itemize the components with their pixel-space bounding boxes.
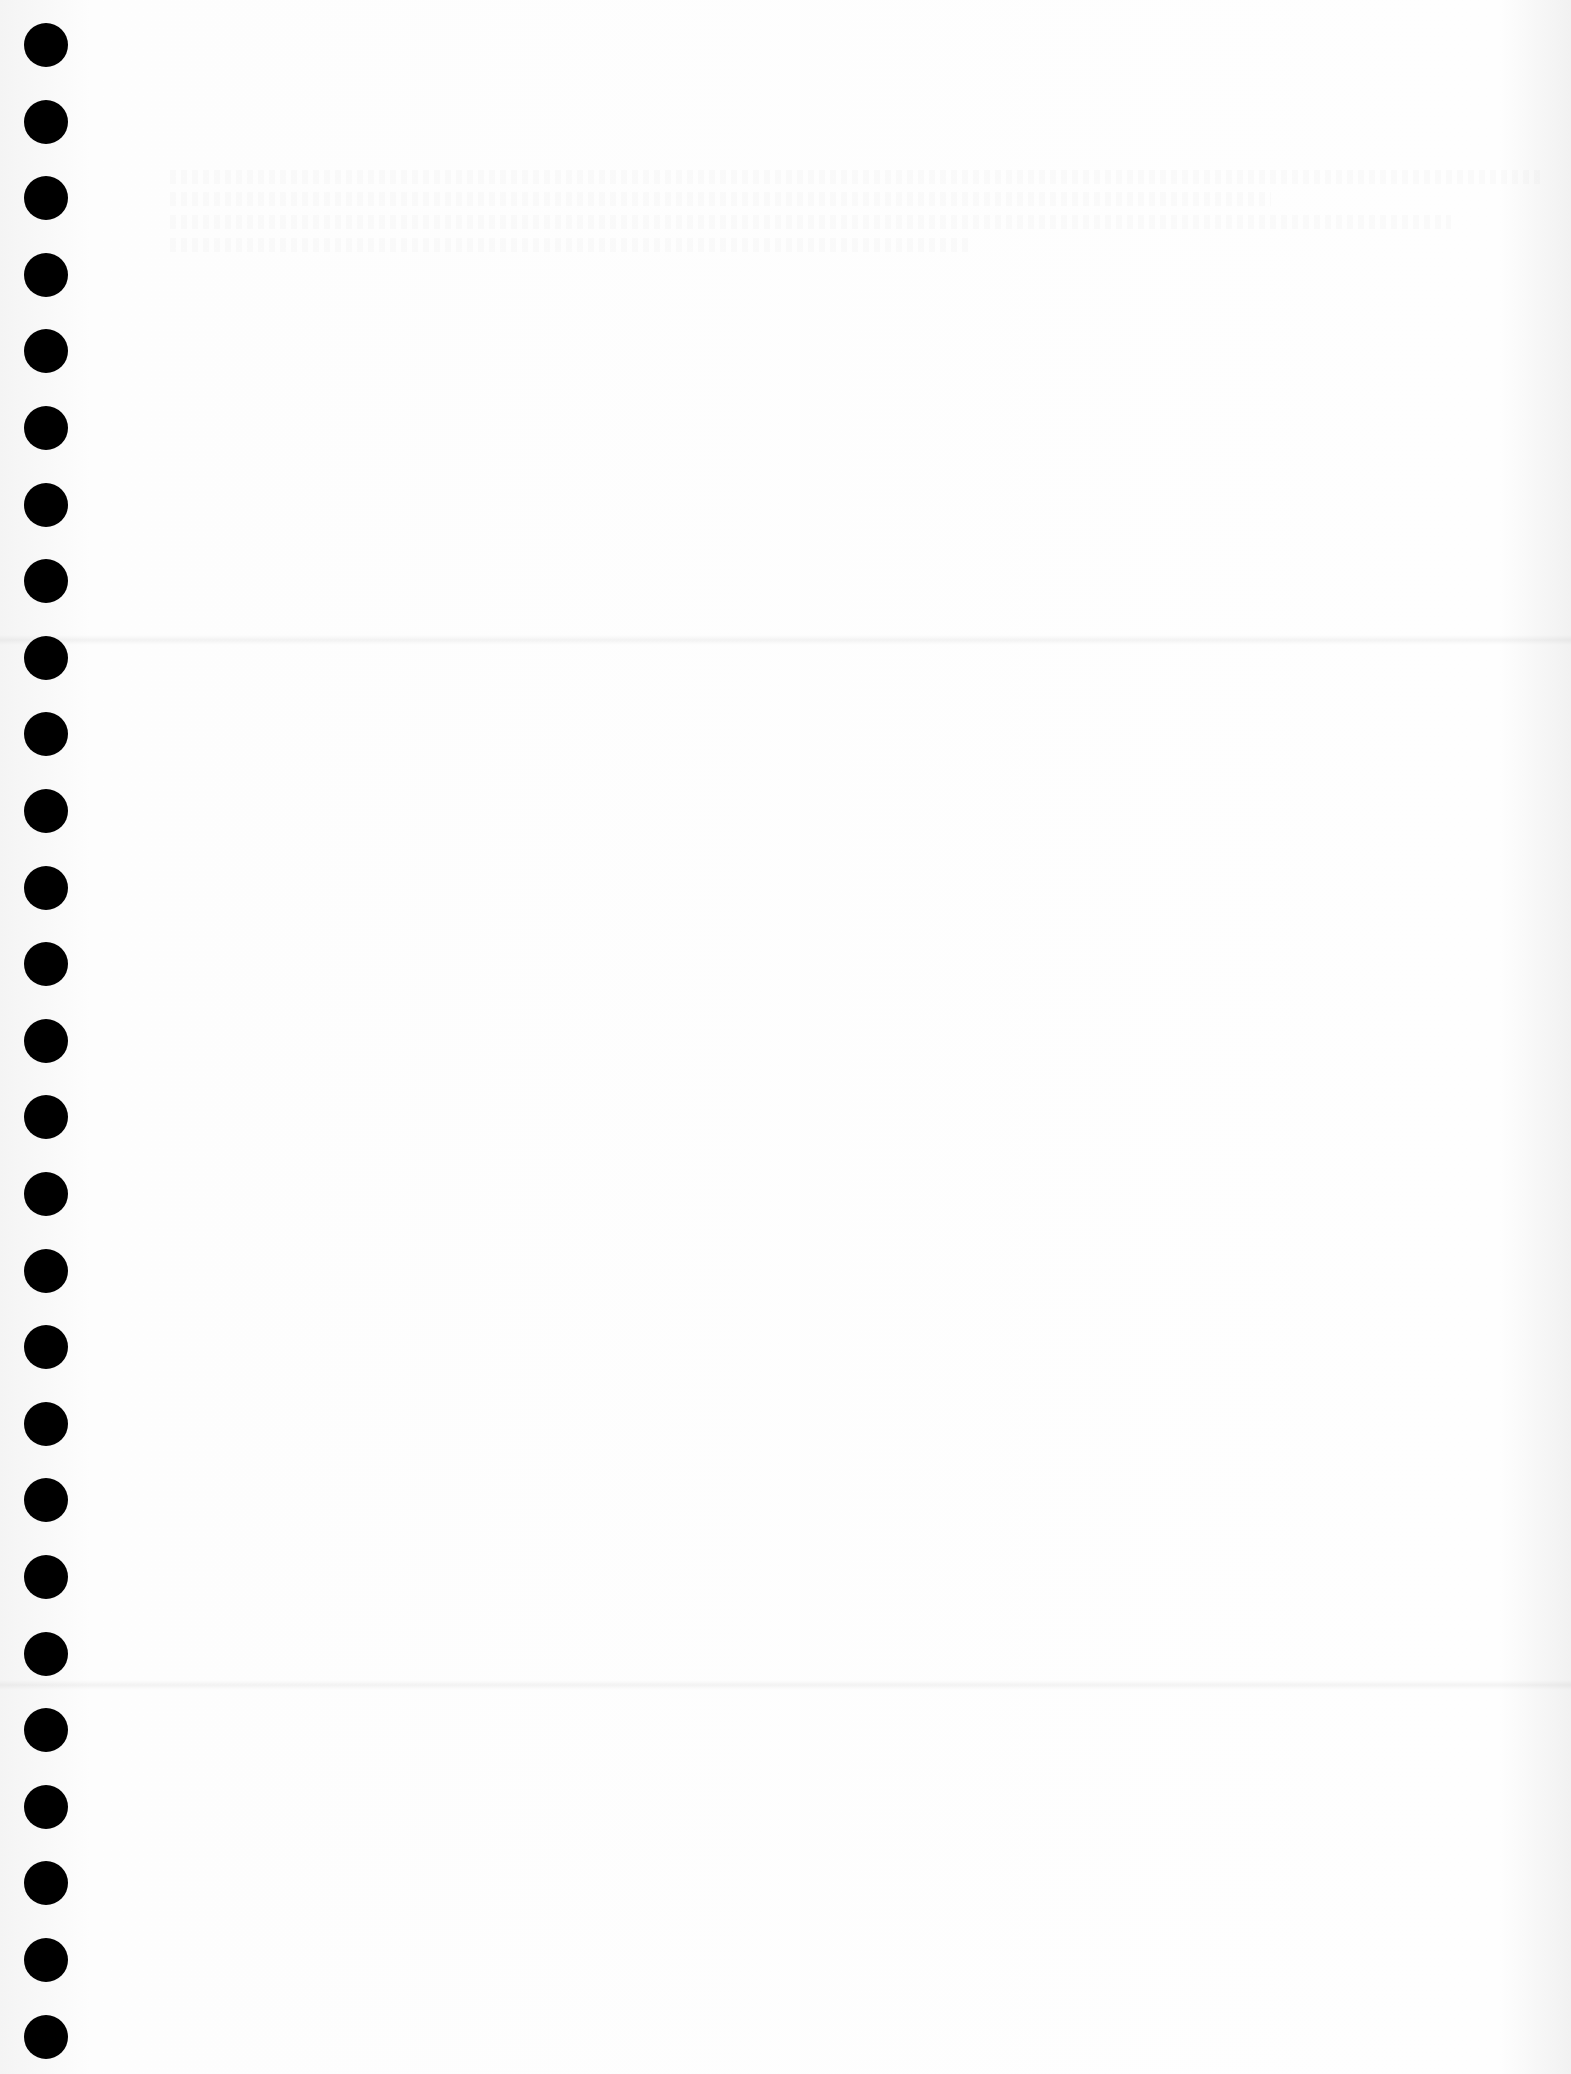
- punch-hole: [24, 1172, 68, 1216]
- punch-hole: [24, 483, 68, 527]
- punch-hole: [24, 329, 68, 373]
- punch-hole: [24, 712, 68, 756]
- punch-hole: [24, 1095, 68, 1139]
- bleed-through-text: [170, 170, 1541, 184]
- punch-hole: [24, 1402, 68, 1446]
- punch-hole: [24, 636, 68, 680]
- punch-hole: [24, 406, 68, 450]
- punch-hole-strip: [24, 0, 84, 2074]
- punch-hole: [24, 1632, 68, 1676]
- punch-hole: [24, 1555, 68, 1599]
- bleed-through-text: [170, 238, 971, 252]
- punch-hole: [24, 1938, 68, 1982]
- punch-hole: [24, 1708, 68, 1752]
- fold-line: [0, 635, 1571, 645]
- punch-hole: [24, 942, 68, 986]
- paper-sheet: [0, 0, 1571, 2074]
- punch-hole: [24, 1478, 68, 1522]
- punch-hole: [24, 1325, 68, 1369]
- punch-hole: [24, 1019, 68, 1063]
- fold-line: [0, 1680, 1571, 1690]
- punch-hole: [24, 2015, 68, 2059]
- punch-hole: [24, 1785, 68, 1829]
- bleed-through-text: [170, 215, 1451, 229]
- punch-hole: [24, 1861, 68, 1905]
- punch-hole: [24, 253, 68, 297]
- punch-hole: [24, 559, 68, 603]
- punch-hole: [24, 100, 68, 144]
- punch-hole: [24, 1249, 68, 1293]
- punch-hole: [24, 23, 68, 67]
- bleed-through-text: [170, 192, 1271, 206]
- punch-hole: [24, 789, 68, 833]
- punch-hole: [24, 176, 68, 220]
- punch-hole: [24, 866, 68, 910]
